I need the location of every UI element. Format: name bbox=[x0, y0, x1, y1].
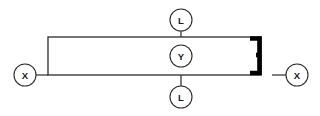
balloon-y-mid[interactable]: Y bbox=[170, 45, 192, 67]
part-rectangle-outline bbox=[48, 37, 261, 75]
balloon-x-right[interactable]: X bbox=[286, 64, 308, 86]
balloon-x-right-label: X bbox=[294, 70, 301, 81]
balloon-l-top[interactable]: L bbox=[170, 9, 192, 31]
balloon-l-bottom-label: L bbox=[178, 92, 184, 103]
balloon-x-left-label: X bbox=[22, 70, 29, 81]
diagram-canvas: X L Y L X bbox=[0, 0, 320, 116]
balloon-y-mid-label: Y bbox=[178, 51, 185, 62]
dimension-diagram: X L Y L X bbox=[0, 0, 320, 116]
balloon-l-bottom[interactable]: L bbox=[170, 86, 192, 108]
balloon-l-top-label: L bbox=[178, 15, 184, 26]
balloon-x-left[interactable]: X bbox=[14, 64, 36, 86]
